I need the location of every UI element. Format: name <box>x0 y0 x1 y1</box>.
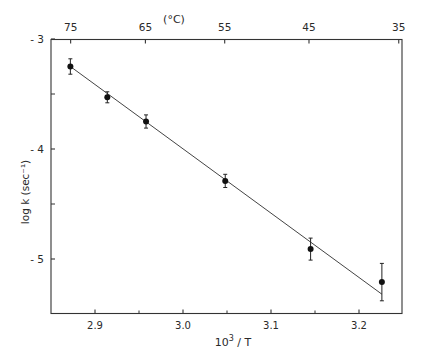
data-point <box>104 92 110 103</box>
y-tick-label: - 3 <box>30 33 44 45</box>
data-point <box>67 59 73 74</box>
x-tick-label: 3.1 <box>263 320 279 331</box>
y-tick-label: - 4 <box>30 143 44 155</box>
data-point <box>222 174 228 187</box>
point-marker <box>308 246 314 252</box>
point-marker <box>222 178 228 184</box>
x-tick-label: 3.2 <box>351 320 367 331</box>
top-tick-label: 65 <box>139 21 152 33</box>
data-point <box>379 263 385 300</box>
top-tick-label: 45 <box>302 21 315 33</box>
plot-frame <box>51 40 402 314</box>
x-axis-ticks: 2.93.03.13.2 <box>87 310 367 331</box>
point-marker <box>104 94 110 100</box>
top-tick-label: 55 <box>218 21 231 33</box>
point-marker <box>67 64 73 70</box>
point-marker <box>143 119 149 125</box>
arrhenius-chart: 2.93.03.13.2 - 3- 4- 5 7565554535 (°C) 1… <box>0 0 421 359</box>
y-axis-label: log k (sec⁻¹) <box>19 160 31 224</box>
top-tick-label: 35 <box>392 21 405 33</box>
data-point <box>308 238 314 260</box>
x-tick-label: 2.9 <box>87 320 103 331</box>
point-marker <box>379 279 385 285</box>
x-tick-label: 3.0 <box>175 320 191 331</box>
top-axis-label: (°C) <box>163 13 185 26</box>
data-points <box>67 59 385 301</box>
top-tick-label: 75 <box>64 21 77 33</box>
x-axis-label: 103 / T <box>215 334 252 349</box>
y-tick-label: - 5 <box>30 253 44 265</box>
data-point <box>143 115 149 128</box>
